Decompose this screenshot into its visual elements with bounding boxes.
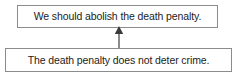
conclusion-box[interactable]: We should abolish the death penalty. [17, 5, 218, 28]
conclusion-text: We should abolish the death penalty. [34, 11, 202, 22]
premise-box[interactable]: The death penalty does not deter crime. [5, 48, 232, 72]
argument-diagram: We should abolish the death penalty. The… [0, 0, 238, 75]
premise-text: The death penalty does not deter crime. [28, 55, 210, 66]
